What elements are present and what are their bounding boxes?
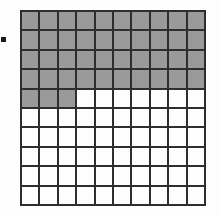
grid-cell-r9-c6 [114, 167, 130, 184]
grid-cell-r1-c6 [114, 12, 130, 29]
grid-cell-r5-c4 [77, 90, 93, 107]
grid-cell-r8-c7 [132, 148, 148, 165]
grid-cell-r3-c4 [77, 51, 93, 68]
grid-cell-r6-c2 [40, 109, 56, 126]
grid-cell-r8-c8 [151, 148, 167, 165]
grid-cell-r1-c7 [132, 12, 148, 29]
grid-cell-r7-c7 [132, 128, 148, 145]
grid-cell-r4-c5 [96, 70, 112, 87]
grid-cell-r1-c4 [77, 12, 93, 29]
grid-cell-r1-c3 [59, 12, 75, 29]
grid-cell-r5-c1 [22, 90, 38, 107]
grid-cell-r6-c4 [77, 109, 93, 126]
grid-cell-r8-c4 [77, 148, 93, 165]
grid-cell-r3-c2 [40, 51, 56, 68]
grid-cell-r9-c4 [77, 167, 93, 184]
grid-cell-r8-c2 [40, 148, 56, 165]
grid-cell-r10-c9 [169, 187, 185, 204]
grid-cell-r1-c5 [96, 12, 112, 29]
bullet-marker-icon [1, 37, 6, 42]
grid-cell-r4-c8 [151, 70, 167, 87]
grid-cell-r10-c5 [96, 187, 112, 204]
grid-cell-r8-c3 [59, 148, 75, 165]
grid-cell-r1-c1 [22, 12, 38, 29]
grid-cell-r10-c10 [188, 187, 204, 204]
grid-cell-r10-c8 [151, 187, 167, 204]
grid-cell-r5-c5 [96, 90, 112, 107]
grid-cell-r6-c6 [114, 109, 130, 126]
grid-cell-r9-c5 [96, 167, 112, 184]
grid-cell-r5-c2 [40, 90, 56, 107]
grid-cell-r1-c8 [151, 12, 167, 29]
grid-cell-r4-c1 [22, 70, 38, 87]
grid-cell-r4-c3 [59, 70, 75, 87]
grid-cell-r6-c8 [151, 109, 167, 126]
grid-cell-r8-c5 [96, 148, 112, 165]
grid-cell-r9-c10 [188, 167, 204, 184]
grid-cell-r4-c2 [40, 70, 56, 87]
grid-cell-r2-c9 [169, 31, 185, 48]
grid-cell-r1-c9 [169, 12, 185, 29]
grid-cell-r4-c6 [114, 70, 130, 87]
grid-cell-r5-c8 [151, 90, 167, 107]
grid-cell-r10-c3 [59, 187, 75, 204]
grid-cell-r7-c4 [77, 128, 93, 145]
grid-cell-r8-c6 [114, 148, 130, 165]
grid-cell-r10-c1 [22, 187, 38, 204]
grid-cell-r10-c6 [114, 187, 130, 204]
grid-cell-r2-c8 [151, 31, 167, 48]
grid-cell-r5-c7 [132, 90, 148, 107]
grid-cell-r8-c9 [169, 148, 185, 165]
grid-cell-r2-c7 [132, 31, 148, 48]
grid-cell-r9-c9 [169, 167, 185, 184]
grid-cell-r9-c7 [132, 167, 148, 184]
grid-cell-r3-c6 [114, 51, 130, 68]
grid-cell-r10-c4 [77, 187, 93, 204]
grid-cell-r7-c9 [169, 128, 185, 145]
grid-cell-r9-c2 [40, 167, 56, 184]
grid-cell-r2-c4 [77, 31, 93, 48]
grid-cell-r6-c7 [132, 109, 148, 126]
grid-cell-r7-c8 [151, 128, 167, 145]
grid-cell-r3-c5 [96, 51, 112, 68]
grid-cell-r6-c5 [96, 109, 112, 126]
grid-cell-r5-c10 [188, 90, 204, 107]
grid-cell-r3-c9 [169, 51, 185, 68]
grid-cell-r5-c3 [59, 90, 75, 107]
grid-cell-r7-c1 [22, 128, 38, 145]
shaded-grid [20, 10, 206, 206]
grid-cell-r3-c7 [132, 51, 148, 68]
grid-cell-r10-c7 [132, 187, 148, 204]
grid-cell-r8-c1 [22, 148, 38, 165]
grid-cell-r3-c3 [59, 51, 75, 68]
grid-cell-r6-c10 [188, 109, 204, 126]
grid-cell-r2-c6 [114, 31, 130, 48]
grid-cell-r7-c5 [96, 128, 112, 145]
grid-cell-r9-c1 [22, 167, 38, 184]
grid-cell-r10-c2 [40, 187, 56, 204]
grid-cell-r5-c9 [169, 90, 185, 107]
grid-cell-r4-c10 [188, 70, 204, 87]
grid-cell-r3-c10 [188, 51, 204, 68]
grid-cell-r9-c3 [59, 167, 75, 184]
grid-cell-r8-c10 [188, 148, 204, 165]
grid-cell-r2-c10 [188, 31, 204, 48]
grid-cell-r7-c3 [59, 128, 75, 145]
grid-cell-r7-c10 [188, 128, 204, 145]
grid-cell-r6-c9 [169, 109, 185, 126]
grid-cell-r6-c3 [59, 109, 75, 126]
grid-cell-r6-c1 [22, 109, 38, 126]
grid-cell-r2-c5 [96, 31, 112, 48]
grid-cell-r2-c2 [40, 31, 56, 48]
grid-cell-r9-c8 [151, 167, 167, 184]
grid-cell-r4-c7 [132, 70, 148, 87]
grid-cell-r4-c9 [169, 70, 185, 87]
grid-cell-r2-c3 [59, 31, 75, 48]
grid-cell-r5-c6 [114, 90, 130, 107]
grid-cell-r1-c10 [188, 12, 204, 29]
grid-cell-r3-c1 [22, 51, 38, 68]
grid-cell-r1-c2 [40, 12, 56, 29]
grid-cell-r2-c1 [22, 31, 38, 48]
grid-cell-r3-c8 [151, 51, 167, 68]
grid-cell-r7-c6 [114, 128, 130, 145]
